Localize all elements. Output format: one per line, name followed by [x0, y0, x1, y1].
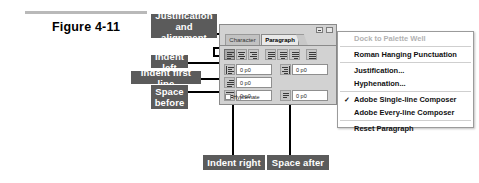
- connector-space-after-v: [289, 98, 291, 155]
- indent-right-input[interactable]: 0 p0: [292, 64, 328, 75]
- menu-item-adobe-every-line-composer[interactable]: Adobe Every-line Composer: [338, 106, 473, 119]
- callout-space-before-label: Space before: [155, 86, 185, 108]
- menu-item-label: Justification...: [354, 66, 404, 75]
- paragraph-palette[interactable]: Character Paragraph ▸: [219, 24, 337, 105]
- menu-item-label: Hyphenation...: [354, 79, 406, 88]
- menu-separator: [340, 62, 471, 63]
- tab-paragraph-label: Paragraph: [265, 37, 295, 43]
- indent-left-input[interactable]: 0 p0: [236, 64, 272, 75]
- space-after-value: 0 p0: [296, 93, 307, 99]
- close-icon[interactable]: [326, 27, 333, 33]
- menu-item-roman-hanging-punctuation[interactable]: Roman Hanging Punctuation: [338, 48, 473, 61]
- menu-item-hyphenation[interactable]: Hyphenation...: [338, 77, 473, 90]
- alignment-button-strip: [224, 49, 332, 60]
- menu-separator: [340, 46, 471, 47]
- hyphenate-checkbox-row[interactable]: Hyphenate: [225, 92, 260, 101]
- indent-left-value: 0 p0: [240, 67, 251, 73]
- indent-first-line-input[interactable]: 0 p0: [236, 77, 272, 88]
- indent-first-line-value: 0 p0: [240, 80, 251, 86]
- space-after-icon: [280, 90, 291, 101]
- minimize-icon[interactable]: [316, 27, 323, 33]
- palette-flyout-menu[interactable]: Dock to Palette Well Roman Hanging Punct…: [337, 31, 474, 128]
- callout-space-before: Space before: [151, 85, 188, 109]
- indent-right-value: 0 p0: [296, 67, 307, 73]
- callout-justification-and-alignment: Justification and alignment: [151, 14, 217, 38]
- menu-item-justification[interactable]: Justification...: [338, 64, 473, 77]
- callout-space-after-label: Space after: [272, 157, 324, 168]
- menu-item-reset-paragraph[interactable]: Reset Paragraph: [338, 122, 473, 135]
- callout-indent-right-label: Indent right: [207, 157, 260, 168]
- figure-container: Figure 4-11 Justification and alignment …: [0, 0, 479, 183]
- palette-body: 0 p0 0 p0 0 p0: [220, 45, 336, 104]
- align-center-button[interactable]: [236, 49, 247, 60]
- tab-character-label: Character: [229, 37, 255, 43]
- menu-item-label: Reset Paragraph: [354, 124, 414, 133]
- menu-item-dock-to-palette-well[interactable]: Dock to Palette Well: [338, 32, 473, 45]
- justify-center-button[interactable]: [277, 49, 288, 60]
- menu-item-label: Roman Hanging Punctuation: [354, 50, 457, 59]
- align-left-button[interactable]: [224, 49, 235, 60]
- justify-all-button[interactable]: [306, 49, 317, 60]
- menu-item-label: Adobe Single-line Composer: [354, 95, 457, 104]
- field-row-indents: 0 p0 0 p0: [224, 64, 332, 75]
- checkmark-icon: ✓: [344, 96, 350, 104]
- justify-right-button[interactable]: [289, 49, 300, 60]
- menu-item-label: Dock to Palette Well: [354, 34, 426, 43]
- callout-indent-right: Indent right: [203, 155, 265, 170]
- connector-indent-left: [186, 62, 222, 64]
- menu-separator: [340, 120, 471, 121]
- callout-space-after: Space after: [267, 155, 329, 170]
- tab-paragraph[interactable]: Paragraph: [261, 34, 299, 45]
- menu-item-adobe-single-line-composer[interactable]: ✓ Adobe Single-line Composer: [338, 93, 473, 106]
- indent-first-line-icon: [224, 77, 235, 88]
- callout-indent-first-line: Indent first line: [131, 71, 201, 84]
- figure-label: Figure 4-11: [25, 20, 147, 34]
- align-right-button[interactable]: [248, 49, 259, 60]
- figure-rule: [25, 11, 147, 14]
- indent-right-icon: [280, 64, 291, 75]
- indent-left-icon: [224, 64, 235, 75]
- menu-item-label: Adobe Every-line Composer: [354, 108, 454, 117]
- tab-character[interactable]: Character: [225, 34, 260, 45]
- hyphenate-checkbox[interactable]: [225, 94, 231, 100]
- connector-space-before: [186, 91, 222, 93]
- menu-separator: [340, 91, 471, 92]
- palette-titlebar[interactable]: [220, 25, 336, 34]
- hyphenate-label: Hyphenate: [233, 94, 260, 100]
- justify-left-button[interactable]: [265, 49, 276, 60]
- field-row-first-line: 0 p0: [224, 77, 274, 88]
- callout-justification-label: Justification and alignment: [155, 10, 213, 43]
- space-after-input[interactable]: 0 p0: [292, 90, 328, 101]
- palette-tabs: Character Paragraph ▸: [220, 34, 336, 45]
